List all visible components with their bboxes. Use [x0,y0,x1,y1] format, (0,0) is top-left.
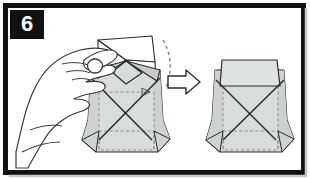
origami-model-closed [206,60,294,152]
illustration-canvas [0,0,310,179]
step-number-badge: 6 [10,10,44,39]
origami-instruction-panel: 6 [0,0,310,179]
step-number-label: 6 [21,13,33,36]
model-closed-top-flap [220,60,280,86]
hand-fingertip-pinch [88,59,103,73]
